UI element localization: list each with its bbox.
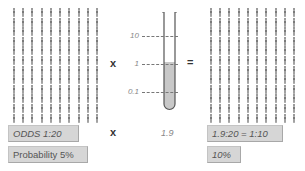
person-icon [271, 56, 280, 66]
person-icon [9, 94, 18, 104]
person-icon [46, 85, 55, 95]
person-icon [225, 27, 234, 37]
person-icon [252, 46, 261, 56]
person-icon [262, 94, 271, 104]
person-icon [206, 75, 215, 85]
person-icon [55, 27, 64, 37]
post-test-odds-box: 1.9:20 = 1:10 [207, 125, 283, 142]
person-icon [55, 66, 64, 76]
person-icon [18, 8, 27, 18]
scale-label-1: 1 [119, 60, 139, 68]
person-icon [18, 37, 27, 47]
person-icon [93, 66, 102, 76]
person-icon [9, 27, 18, 37]
person-icon [280, 114, 289, 124]
person-icon [290, 27, 299, 37]
person-icon [46, 94, 55, 104]
person-icon [28, 46, 37, 56]
person-icon [271, 75, 280, 85]
person-icon [65, 104, 74, 114]
person-icon [290, 56, 299, 66]
person-icon [215, 56, 224, 66]
post-test-probability-box: 10% [207, 146, 241, 163]
person-icon [252, 18, 261, 28]
person-icon [215, 8, 224, 18]
person-icon [215, 94, 224, 104]
scale-label-0-1: 0.1 [119, 88, 139, 96]
person-icon [215, 104, 224, 114]
person-icon [65, 94, 74, 104]
person-icon [55, 37, 64, 47]
person-icon [252, 37, 261, 47]
person-icon [9, 75, 18, 85]
person-icon [206, 94, 215, 104]
person-icon [9, 104, 18, 114]
person-icon [290, 8, 299, 18]
person-icon [243, 104, 252, 114]
person-icon [271, 46, 280, 56]
person-icon [28, 94, 37, 104]
person-icon [234, 94, 243, 104]
person-icon [225, 18, 234, 28]
person-icon [271, 37, 280, 47]
person-icon [280, 75, 289, 85]
person-icon [234, 18, 243, 28]
person-icon [93, 27, 102, 37]
person-icon [37, 8, 46, 18]
person-icon [18, 56, 27, 66]
person-icon [206, 27, 215, 37]
person-icon [74, 94, 83, 104]
person-icon [262, 104, 271, 114]
person-icon [280, 66, 289, 76]
person-icon [262, 75, 271, 85]
person-icon [37, 75, 46, 85]
person-icon [93, 114, 102, 124]
person-icon [280, 56, 289, 66]
person-icon [252, 75, 261, 85]
person-icon [215, 66, 224, 76]
person-icon [46, 75, 55, 85]
person-icon [46, 56, 55, 66]
person-icon [271, 66, 280, 76]
person-icon [243, 37, 252, 47]
person-icon [74, 37, 83, 47]
person-icon [234, 104, 243, 114]
person-icon [93, 85, 102, 95]
person-icon [290, 94, 299, 104]
person-icon [46, 37, 55, 47]
person-icon [74, 18, 83, 28]
person-icon [37, 18, 46, 28]
person-icon [234, 27, 243, 37]
person-icon [206, 56, 215, 66]
person-icon [252, 27, 261, 37]
person-icon [65, 37, 74, 47]
person-icon [74, 85, 83, 95]
person-icon [46, 66, 55, 76]
person-icon [206, 37, 215, 47]
person-icon [9, 114, 18, 124]
scale-line-10 [142, 36, 178, 37]
person-icon [28, 85, 37, 95]
person-icon [262, 46, 271, 56]
person-icon [225, 104, 234, 114]
person-icon [55, 94, 64, 104]
person-icon [262, 56, 271, 66]
person-icon [262, 8, 271, 18]
person-icon [271, 85, 280, 95]
person-icon [243, 46, 252, 56]
person-icon [234, 46, 243, 56]
person-icon [74, 66, 83, 76]
person-icon [225, 8, 234, 18]
person-icon [225, 46, 234, 56]
person-icon [37, 56, 46, 66]
person-icon [37, 46, 46, 56]
person-icon [37, 94, 46, 104]
person-icon [46, 114, 55, 124]
person-icon [280, 85, 289, 95]
person-icon [280, 46, 289, 56]
person-icon [225, 114, 234, 124]
person-icon [74, 8, 83, 18]
person-icon [215, 114, 224, 124]
person-icon [9, 66, 18, 76]
person-icon [243, 27, 252, 37]
